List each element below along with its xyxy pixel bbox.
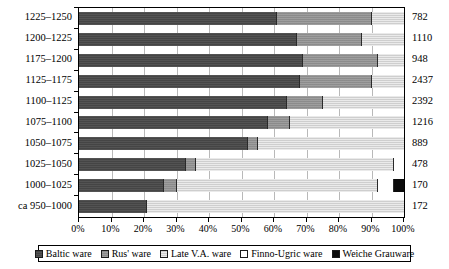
finno-ugric-swatch-icon [240, 250, 248, 258]
row-total-labels: 7821110948243723921216889478170172 [0, 7, 449, 218]
row-total-value: 782 [412, 11, 449, 22]
x-axis-tick [143, 218, 144, 222]
legend-label: Rus' ware [112, 249, 151, 259]
baltic-swatch-icon [35, 250, 43, 258]
weiche-grauware-swatch-icon [332, 250, 340, 258]
x-axis: 0%10%20%30%40%50%60%70%80%90%100% [78, 218, 405, 236]
x-axis-tick [241, 218, 242, 222]
row-total-value: 170 [412, 179, 449, 190]
x-axis-tick [371, 218, 372, 222]
row-total-value: 2392 [412, 95, 449, 106]
stacked-bar-chart: 1225–12501200–12251175–12001125–11751100… [0, 0, 449, 269]
x-axis-tick [338, 218, 339, 222]
legend-label: Finno-Ugric ware [251, 249, 322, 259]
x-axis-tick [111, 218, 112, 222]
x-axis-tick [78, 218, 79, 222]
row-total-value: 478 [412, 158, 449, 169]
legend-item: Late V.A. ware [160, 249, 231, 259]
legend-label: Baltic ware [46, 249, 92, 259]
x-axis-tick [306, 218, 307, 222]
row-total-value: 1110 [412, 32, 449, 43]
x-axis-tick [176, 218, 177, 222]
x-axis-label: 100% [381, 223, 425, 234]
legend-item: Rus' ware [101, 249, 151, 259]
legend-item: Baltic ware [35, 249, 92, 259]
late-va-swatch-icon [160, 250, 168, 258]
legend-label: Weiche Grauware [343, 249, 415, 259]
row-total-value: 1216 [412, 116, 449, 127]
legend-item: Weiche Grauware [332, 249, 415, 259]
row-total-value: 172 [412, 200, 449, 211]
chart-legend: Baltic wareRus' wareLate V.A. wareFinno-… [38, 245, 411, 262]
row-total-value: 889 [412, 137, 449, 148]
row-total-value: 948 [412, 53, 449, 64]
legend-label: Late V.A. ware [171, 249, 231, 259]
rus-swatch-icon [101, 250, 109, 258]
row-total-value: 2437 [412, 74, 449, 85]
x-axis-tick [273, 218, 274, 222]
x-axis-tick [403, 218, 404, 222]
legend-item: Finno-Ugric ware [240, 249, 322, 259]
x-axis-tick [208, 218, 209, 222]
